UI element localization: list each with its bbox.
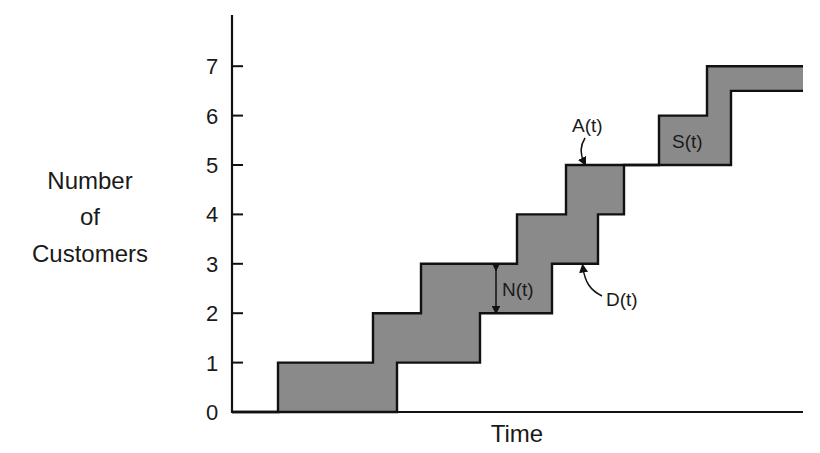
y-tick-label: 4 — [206, 202, 218, 227]
y-tick-label: 6 — [206, 104, 218, 129]
chart-canvas: 01234567 Number of Customers Time A(t) D… — [0, 0, 820, 453]
area-label: S(t) — [672, 131, 703, 152]
y-tick-label: 7 — [206, 54, 218, 79]
y-axis-label-line-2: of — [80, 203, 100, 230]
y-ticks: 01234567 — [206, 54, 243, 425]
departure-pointer-icon — [583, 268, 602, 296]
arrival-pointer-icon — [581, 138, 585, 162]
departure-curve-label: D(t) — [606, 289, 638, 310]
y-axis-label-line-1: Number — [47, 167, 132, 194]
x-axis-label: Time — [491, 420, 543, 447]
y-tick-label: 2 — [206, 301, 218, 326]
y-tick-label: 0 — [206, 400, 218, 425]
y-tick-label: 3 — [206, 252, 218, 277]
queueing-chart: 01234567 Number of Customers Time A(t) D… — [0, 0, 820, 453]
y-tick-label: 5 — [206, 153, 218, 178]
y-axis-label-line-3: Customers — [32, 240, 148, 267]
y-tick-label: 1 — [206, 351, 218, 376]
arrival-curve-label: A(t) — [572, 115, 603, 136]
queue-length-label: N(t) — [502, 279, 534, 300]
